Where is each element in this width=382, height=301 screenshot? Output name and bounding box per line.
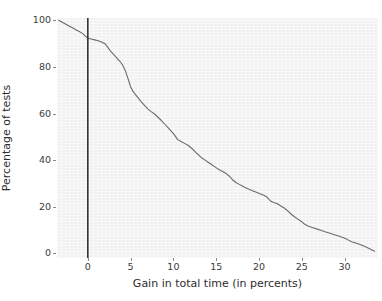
x-tick-label: 15 xyxy=(210,262,222,272)
x-tick-label: 30 xyxy=(339,262,351,272)
x-tick-label: 25 xyxy=(296,262,308,272)
x-tick-label: 0 xyxy=(85,262,91,272)
x-tick-label: 10 xyxy=(167,262,179,272)
y-axis-title: Percentage of tests xyxy=(0,85,13,191)
y-axis-title-wrapper: Percentage of tests xyxy=(0,0,1,1)
chart-figure: 020406080100 051015202530 Gain in total … xyxy=(0,0,382,301)
x-tick-mark xyxy=(131,258,132,261)
y-tick-label: 20 xyxy=(3,202,51,212)
x-tick-mark xyxy=(88,258,89,261)
y-tick-mark xyxy=(53,20,56,21)
y-tick-label: 100 xyxy=(3,16,51,26)
y-tick-mark xyxy=(53,114,56,115)
plot-area xyxy=(57,18,378,258)
zero-gain-reference-line xyxy=(57,18,378,258)
x-tick-mark xyxy=(345,258,346,261)
y-tick-mark xyxy=(53,160,56,161)
y-tick-label: 80 xyxy=(3,62,51,72)
x-tick-mark xyxy=(259,258,260,261)
x-tick-mark xyxy=(216,258,217,261)
y-tick-mark xyxy=(53,67,56,68)
x-tick-label: 20 xyxy=(253,262,265,272)
y-tick-mark xyxy=(53,207,56,208)
x-tick-mark xyxy=(302,258,303,261)
y-tick-mark xyxy=(53,253,56,254)
x-tick-mark xyxy=(173,258,174,261)
y-tick-label: 0 xyxy=(3,249,51,259)
x-tick-label: 5 xyxy=(128,262,134,272)
x-axis-title: Gain in total time (in percents) xyxy=(57,277,378,290)
